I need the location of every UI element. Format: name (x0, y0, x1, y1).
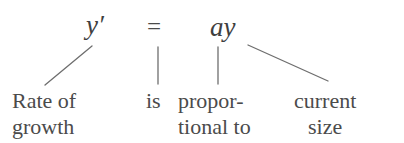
label-current-size-line2: size (294, 114, 356, 140)
equation-rhs: ay (210, 14, 235, 41)
label-proportional-to-line2: tional to (178, 114, 251, 140)
label-rate-of-growth: Rate of growth (12, 88, 76, 140)
connector-current-size (248, 45, 328, 81)
annotated-equation-figure: y′ = ay Rate of growth is propor- tional… (0, 0, 404, 143)
connector-rate-of-growth (45, 46, 92, 85)
equation-lhs: y′ (86, 12, 104, 39)
equation-equals-operator: = (147, 14, 161, 39)
label-is-line1: is (146, 88, 161, 114)
label-rate-of-growth-line1: Rate of (12, 88, 76, 114)
label-proportional-to: propor- tional to (178, 88, 251, 140)
label-current-size-line1: current (294, 88, 356, 114)
label-current-size: current size (294, 88, 356, 140)
label-proportional-to-line1: propor- (178, 88, 251, 114)
label-rate-of-growth-line2: growth (12, 114, 76, 140)
label-is: is (146, 88, 161, 114)
